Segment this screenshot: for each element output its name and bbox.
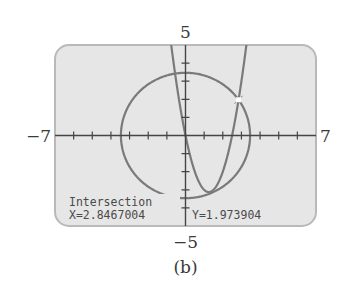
intersection-point bbox=[236, 97, 241, 102]
y-max-label: 5 bbox=[180, 22, 191, 42]
x-min-label: −7 bbox=[26, 126, 51, 146]
y-readout: Y=1.973904 bbox=[192, 208, 261, 222]
figure-caption: (b) bbox=[173, 257, 197, 277]
y-min-label: −5 bbox=[173, 232, 198, 252]
calculator-graph-figure: Intersection X=2.8467004 Y=1.973904 5 −5… bbox=[0, 0, 352, 290]
x-readout: X=2.8467004 bbox=[69, 208, 145, 222]
x-max-label: 7 bbox=[320, 126, 331, 146]
intersection-label: Intersection bbox=[69, 195, 152, 209]
